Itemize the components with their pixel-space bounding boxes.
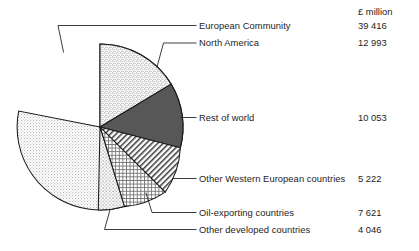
label-other-developed: Other developed countries: [199, 224, 310, 235]
value-european-community: 39 416: [358, 20, 387, 31]
leader-line-north-america: [157, 43, 196, 67]
label-other-western-european: Other Western European countries: [199, 173, 345, 184]
pie-slices: [17, 44, 183, 210]
value-other-developed: 4 046: [358, 224, 381, 235]
value-rest-of-world: 10 053: [358, 112, 387, 123]
label-european-community: European Community: [199, 20, 291, 31]
value-north-america: 12 993: [358, 37, 387, 48]
unit-header: £ million: [358, 6, 392, 17]
pie-chart-figure: £ million European Community 39 416 Nort…: [0, 0, 419, 251]
label-oil-exporting: Oil-exporting countries: [199, 207, 294, 218]
value-oil-exporting: 7 621: [358, 207, 381, 218]
label-rest-of-world: Rest of world: [199, 112, 254, 123]
label-north-america: North America: [199, 37, 259, 48]
value-other-western-european: 5 222: [358, 173, 381, 184]
